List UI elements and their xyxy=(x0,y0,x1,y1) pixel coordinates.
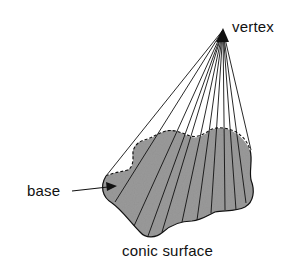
base-label: base xyxy=(27,183,60,198)
vertex-label: vertex xyxy=(232,19,274,34)
conic-surface-diagram: vertex base conic surface xyxy=(0,0,296,273)
diagram-graphic xyxy=(0,0,296,273)
vertex-point xyxy=(216,28,229,42)
conic-surface-label: conic surface xyxy=(122,243,213,258)
base-region xyxy=(102,128,253,237)
